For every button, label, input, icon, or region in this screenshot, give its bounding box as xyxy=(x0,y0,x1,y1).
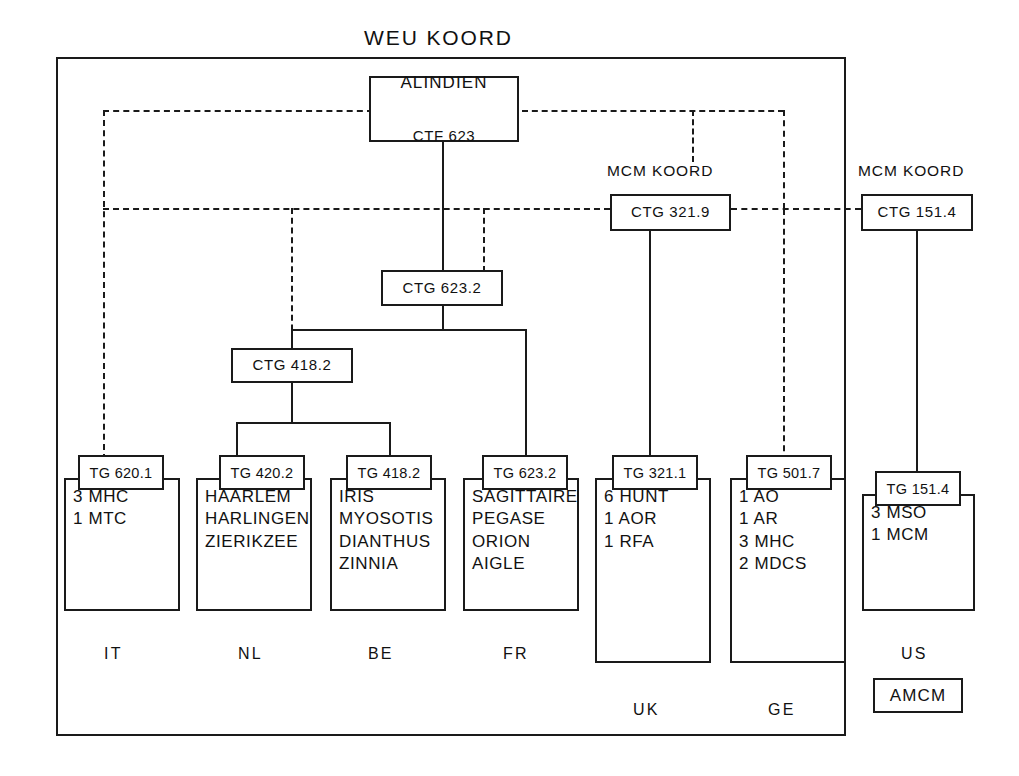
unit-line: ORION xyxy=(472,531,577,553)
dashed-rail-right-segment xyxy=(731,208,861,210)
unit-line: 2 MDCS xyxy=(739,553,844,575)
node-amcm-label: AMCM xyxy=(890,686,946,705)
diagram-title: WEU KOORD xyxy=(364,26,513,50)
node-ctg-321-9[interactable]: CTG 321.9 xyxy=(610,194,731,231)
country-label-be: BE xyxy=(368,645,394,663)
unit-box-ge[interactable]: 1 AO 1 AR 3 MHC 2 MDCS xyxy=(730,478,846,663)
dashed-drop-ctg-623-2 xyxy=(483,208,485,272)
dashed-link-to-tg-620-1 xyxy=(103,110,105,460)
unit-line: MYOSOTIS xyxy=(339,508,444,530)
unit-line: 1 MCM xyxy=(871,524,973,546)
tg-badge-151-4[interactable]: TG 151.4 xyxy=(875,471,961,506)
node-ctg-418-2-label: CTG 418.2 xyxy=(253,357,332,374)
unit-line: 1 AR xyxy=(739,508,844,530)
tg-badge-501-7[interactable]: TG 501.7 xyxy=(746,455,832,490)
node-ctg-418-2[interactable]: CTG 418.2 xyxy=(231,348,353,383)
tg-badge-418-2[interactable]: TG 418.2 xyxy=(346,455,432,490)
line-ctg-321-9-to-tg-321-1 xyxy=(649,231,651,461)
tg-badge-321-1[interactable]: TG 321.1 xyxy=(612,455,698,490)
country-label-it: IT xyxy=(104,645,123,663)
unit-line: ZINNIA xyxy=(339,553,444,575)
country-label-nl: NL xyxy=(238,645,263,663)
node-ctg-151-4-label: CTG 151.4 xyxy=(878,204,957,221)
tg-badge-420-2[interactable]: TG 420.2 xyxy=(219,455,305,490)
unit-box-fr[interactable]: SAGITTAIRE PEGASE ORION AIGLE xyxy=(463,478,579,611)
unit-box-uk[interactable]: 6 HUNT 1 AOR 1 RFA xyxy=(595,478,711,663)
node-alindien[interactable]: ALINDIEN CTF 623 xyxy=(369,76,519,142)
node-alindien-text: ALINDIEN CTF 623 xyxy=(400,37,487,180)
country-label-us: US xyxy=(901,645,928,663)
line-ctg-151-4-to-tg-151-4 xyxy=(916,231,918,477)
diagram-canvas: WEU KOORD ALINDIEN CTF 623 CTG 623.2 xyxy=(0,0,1019,776)
node-alindien-line1: ALINDIEN xyxy=(400,73,487,92)
tg-badge-623-2[interactable]: TG 623.2 xyxy=(482,455,568,490)
unit-box-be[interactable]: IRIS MYOSOTIS DIANTHUS ZINNIA xyxy=(330,478,446,611)
heading-mcm-koord-151: MCM KOORD xyxy=(858,162,964,180)
unit-line: 3 MHC xyxy=(739,531,844,553)
dashed-link-right-down xyxy=(783,110,785,209)
unit-line: DIANTHUS xyxy=(339,531,444,553)
heading-mcm-koord-321: MCM KOORD xyxy=(607,162,713,180)
unit-line: PEGASE xyxy=(472,508,577,530)
node-alindien-line2: CTF 623 xyxy=(400,128,487,145)
line-ctg-623-2-down xyxy=(442,306,444,330)
node-amcm[interactable]: AMCM xyxy=(873,678,963,713)
unit-line: 1 RFA xyxy=(604,531,709,553)
unit-line: AIGLE xyxy=(472,553,577,575)
node-ctg-151-4[interactable]: CTG 151.4 xyxy=(861,194,973,231)
dashed-link-alindien-right xyxy=(522,110,784,112)
unit-box-us[interactable]: 3 MSO 1 MCM xyxy=(862,494,975,611)
bar-ctg-623-2-children xyxy=(291,329,527,331)
node-ctg-321-9-label: CTG 321.9 xyxy=(631,204,710,221)
unit-box-nl[interactable]: HAARLEM HARLINGEN ZIERIKZEE xyxy=(196,478,312,611)
node-ctg-623-2[interactable]: CTG 623.2 xyxy=(381,270,503,306)
bar-ctg-418-2-children xyxy=(236,422,391,424)
dashed-rail-left-segment xyxy=(103,208,610,210)
country-label-fr: FR xyxy=(503,645,529,663)
line-ctg-418-2-down xyxy=(291,383,293,423)
unit-line: 1 AOR xyxy=(604,508,709,530)
tg-badge-620-1[interactable]: TG 620.1 xyxy=(78,455,164,490)
unit-line: ZIERIKZEE xyxy=(205,531,310,553)
unit-line: HARLINGEN xyxy=(205,508,310,530)
dashed-stub-mcm-koord-321 xyxy=(692,110,694,162)
line-bar-to-tg-623-2 xyxy=(525,329,527,461)
unit-box-it[interactable]: 3 MHC 1 MTC xyxy=(64,478,180,611)
dashed-link-alindien-left xyxy=(103,110,373,112)
dashed-drop-tg-501-7 xyxy=(783,209,785,461)
country-label-uk: UK xyxy=(633,701,660,719)
node-ctg-623-2-label: CTG 623.2 xyxy=(403,280,482,297)
unit-line: 1 MTC xyxy=(73,508,178,530)
country-label-ge: GE xyxy=(768,701,796,719)
